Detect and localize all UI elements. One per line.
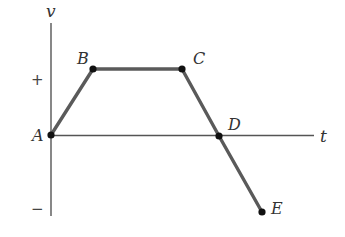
point-c-dot bbox=[178, 65, 185, 72]
point-a-label: A bbox=[30, 126, 44, 145]
diagram-svg: v t + − A B C D E bbox=[0, 0, 345, 237]
velocity-time-diagram: v t + − A B C D E bbox=[0, 0, 345, 237]
point-d-label: D bbox=[227, 115, 241, 134]
point-b-dot bbox=[89, 65, 96, 72]
point-d-dot bbox=[215, 132, 222, 139]
point-c-label: C bbox=[193, 49, 205, 68]
point-e-label: E bbox=[270, 199, 283, 218]
t-axis-label: t bbox=[320, 126, 327, 146]
negative-sign: − bbox=[31, 200, 44, 218]
point-a-dot bbox=[47, 131, 54, 138]
positive-sign: + bbox=[31, 71, 44, 89]
point-e-dot bbox=[258, 208, 265, 215]
velocity-curve bbox=[51, 69, 262, 212]
v-axis-label: v bbox=[46, 1, 56, 21]
point-b-label: B bbox=[76, 49, 89, 68]
